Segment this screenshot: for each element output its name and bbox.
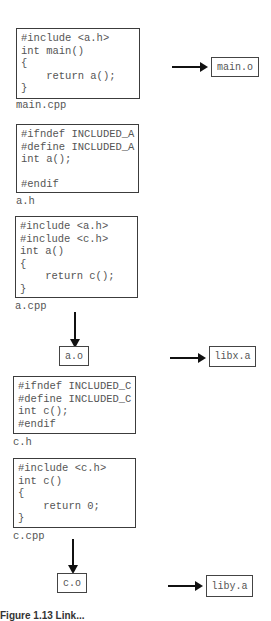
c-cpp-label: c.cpp	[13, 530, 45, 542]
a-cpp-code: #include <a.h> #include <c.h> int a() { …	[20, 220, 115, 296]
liby-a-box: liby.a	[206, 575, 253, 597]
main-cpp-label: main.cpp	[16, 99, 66, 111]
a-cpp-label: a.cpp	[15, 300, 47, 312]
c-cpp-code: #include <c.h> int c() { return 0; }	[18, 462, 106, 525]
main-o-box: main.o	[211, 57, 259, 77]
arrow-down-icon	[72, 539, 74, 567]
main-cpp-box: #include <a.h> int main() { return a(); …	[16, 28, 140, 99]
c-cpp-box: #include <c.h> int c() { return 0; }	[13, 458, 136, 528]
figure-caption: Figure 1.13 Link...	[0, 610, 84, 621]
c-h-code: #ifndef INCLUDED_C #define INCLUDED_C in…	[18, 380, 131, 430]
a-h-label: a.h	[16, 195, 35, 207]
a-h-code: #ifndef INCLUDED_A #define INCLUDED_A in…	[21, 128, 134, 191]
arrow-right-icon	[170, 357, 199, 359]
main-cpp-code: #include <a.h> int main() { return a(); …	[21, 32, 116, 95]
c-h-box: #ifndef INCLUDED_C #define INCLUDED_C in…	[13, 376, 136, 434]
a-h-box: #ifndef INCLUDED_A #define INCLUDED_A in…	[16, 124, 139, 193]
libx-a-box: libx.a	[209, 346, 256, 367]
arrow-right-icon	[168, 585, 196, 587]
c-o-box: c.o	[57, 573, 87, 593]
a-o-box: a.o	[59, 346, 89, 366]
a-cpp-box: #include <a.h> #include <c.h> int a() { …	[15, 216, 138, 298]
c-h-label: c.h	[13, 436, 32, 448]
arrow-right-icon	[172, 66, 201, 68]
arrow-down-icon	[74, 312, 76, 341]
